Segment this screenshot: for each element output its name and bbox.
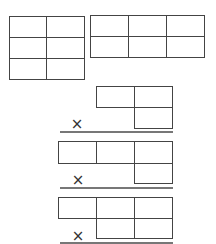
grid-cell xyxy=(134,197,173,219)
grid-cell xyxy=(58,197,97,219)
grid-cell xyxy=(166,36,205,58)
grid-cell xyxy=(134,86,173,108)
grid-cell xyxy=(96,218,135,239)
grid-cell xyxy=(166,15,205,37)
grid-cell xyxy=(96,86,135,108)
grid-cell xyxy=(134,107,173,129)
grid-cell xyxy=(90,15,129,37)
multiply-sign: × xyxy=(70,117,84,132)
grid-cell xyxy=(134,141,173,164)
grid-cell xyxy=(46,37,85,59)
sum-rule xyxy=(60,187,173,189)
grid-cell xyxy=(58,141,97,164)
grid-cell xyxy=(96,197,135,219)
grid-cell xyxy=(9,37,47,59)
grid-cell xyxy=(46,58,85,80)
grid-cell xyxy=(128,36,167,58)
grid-cell xyxy=(9,16,47,38)
grid-cell xyxy=(90,36,129,58)
grid-cell xyxy=(46,16,85,38)
grid-cell xyxy=(134,218,173,239)
sum-rule xyxy=(60,131,173,133)
grid-cell xyxy=(96,141,135,164)
grid-cell xyxy=(9,58,47,80)
grid-cell xyxy=(134,163,173,184)
grid-cell xyxy=(128,15,167,37)
multiply-sign: × xyxy=(71,173,85,188)
